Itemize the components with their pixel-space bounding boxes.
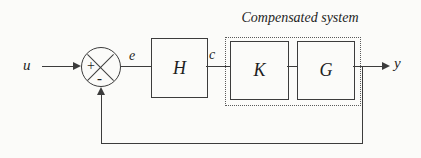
feedback-wire-bottom [101,143,363,144]
error-signal-label: e [129,48,135,64]
summing-junction: + - [81,47,121,87]
feedback-wire-left [101,94,102,144]
control-signal-label: c [209,47,215,63]
feedback-arrowhead-icon [97,87,105,95]
plus-sign: + [87,59,95,73]
output-wire [353,66,383,67]
minus-sign: - [97,71,102,86]
controller-block: H [151,38,208,98]
compensator-block-label: K [253,60,265,81]
output-arrowhead-icon [382,62,390,70]
error-wire [121,66,151,67]
internal-wire [287,66,297,67]
plant-block: G [297,41,355,100]
output-signal-label: y [394,55,401,72]
feedback-wire-right [362,67,363,144]
input-wire [42,66,74,67]
plant-block-label: G [320,60,333,81]
input-arrowhead-icon [73,62,81,70]
controller-block-label: H [173,58,186,79]
input-signal-label: u [23,57,31,74]
group-title: Compensated system [233,10,367,26]
block-diagram: u + - e H c Compensated system K G y [0,0,421,158]
compensator-block: K [230,41,289,100]
